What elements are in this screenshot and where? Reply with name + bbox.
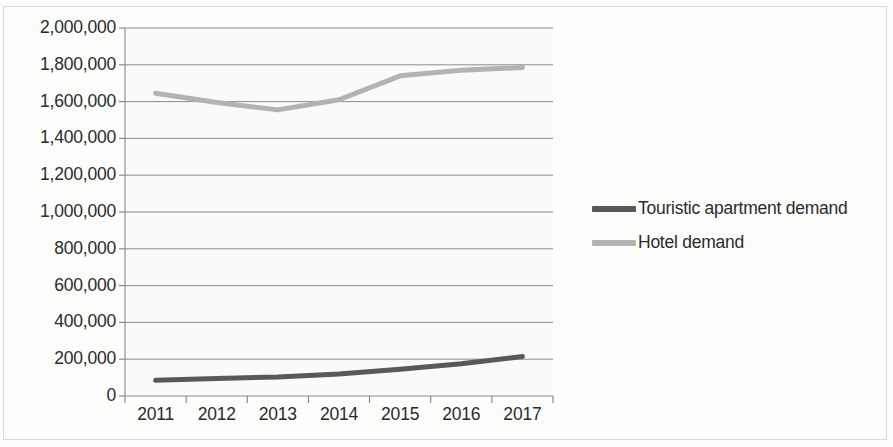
legend-label: Touristic apartment demand — [638, 200, 847, 218]
line-chart: 0200,000400,000600,000800,0001,000,0001,… — [0, 0, 893, 447]
legend-label: Hotel demand — [638, 234, 744, 252]
legend-entry[interactable]: Hotel demand — [592, 226, 890, 260]
x-tick-label: 2014 — [309, 406, 369, 424]
x-tick-label: 2011 — [126, 406, 186, 424]
legend-swatch-icon — [592, 240, 636, 246]
legend-entry[interactable]: Touristic apartment demand — [592, 192, 890, 226]
legend-swatch-icon — [592, 206, 636, 212]
x-axis-ticks — [125, 396, 553, 403]
x-tick-label: 2015 — [370, 406, 430, 424]
x-tick-label: 2013 — [248, 406, 308, 424]
x-tick-label: 2017 — [492, 406, 552, 424]
x-axis: 2011201220132014201520162017 — [125, 406, 553, 436]
x-tick-label: 2016 — [431, 406, 491, 424]
chart-legend: Touristic apartment demandHotel demand — [592, 192, 890, 260]
x-tick-label: 2012 — [187, 406, 247, 424]
y-axis-ticks — [119, 28, 125, 396]
chart-screenshot: 0200,000400,000600,000800,0001,000,0001,… — [0, 0, 893, 447]
